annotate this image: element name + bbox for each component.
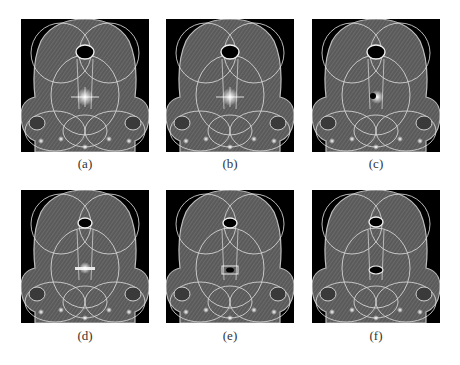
panel-a: [21, 19, 149, 152]
panel-d: [21, 190, 149, 323]
reconstruction-image: [312, 190, 440, 323]
panel-b: [166, 19, 294, 152]
reconstruction-image: [166, 19, 294, 152]
reconstruction-image: [21, 19, 149, 152]
caption-f: (f): [312, 328, 440, 344]
panel-c: [312, 19, 440, 152]
caption-b: (b): [166, 156, 294, 172]
reconstruction-image: [21, 190, 149, 323]
caption-c: (c): [312, 156, 440, 172]
panel-f: [312, 190, 440, 323]
panel-e: [166, 190, 294, 323]
reconstruction-image: [166, 190, 294, 323]
caption-a: (a): [21, 156, 149, 172]
caption-d: (d): [21, 328, 149, 344]
caption-e: (e): [166, 328, 294, 344]
reconstruction-image: [312, 19, 440, 152]
